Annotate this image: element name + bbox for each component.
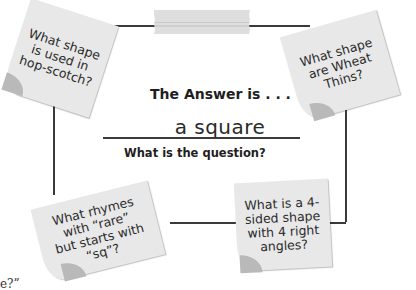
- page-curl-icon: [1, 72, 27, 96]
- note-text: What shape is used in hop-scotch?: [8, 18, 112, 98]
- answer-text: a square: [150, 115, 290, 139]
- answer-underline: [103, 137, 300, 139]
- sticky-note-bottom-right: What is a 4-sided shape with 4 right ang…: [234, 179, 332, 272]
- note-text: What shape are Wheat Thins?: [284, 24, 396, 107]
- cropped-caption-text: e?”: [0, 277, 20, 290]
- sticky-note-top-left: What shape is used in hop-scotch?: [1, 0, 118, 118]
- frame-left-line: [53, 100, 55, 195]
- tape-strip: [154, 10, 250, 34]
- question-prompt: What is the question?: [124, 146, 324, 160]
- note-text: What is a 4-sided shape with 4 right ang…: [234, 191, 331, 260]
- frame-right-line: [345, 110, 347, 222]
- note-text: What rhymes with “rare” but starts with …: [32, 184, 165, 279]
- sticky-note-top-right: What shape are Wheat Thins?: [280, 10, 400, 122]
- sticky-note-bottom-left: What rhymes with “rare” but starts with …: [31, 181, 166, 284]
